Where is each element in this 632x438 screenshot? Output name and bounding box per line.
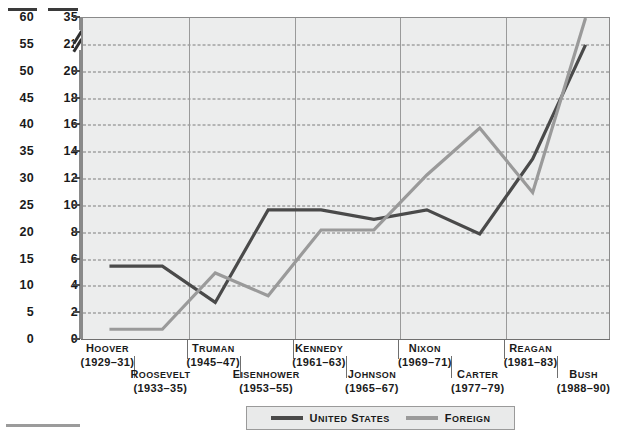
left-axis-tick-60: 60 <box>19 11 34 24</box>
x-axis-label-nixon: NIXON(1969–71) <box>398 342 452 368</box>
x-label-name: CARTER <box>451 368 505 382</box>
x-axis-band: HOOVER(1929–31)ROOSEVELT(1933–35)TRUMAN(… <box>81 339 610 401</box>
left-axis-tick-20: 20 <box>19 225 34 238</box>
x-axis-label-kennedy: KENNEDY(1961–63) <box>292 342 346 368</box>
x-label-name: HOOVER <box>81 342 135 356</box>
right-axis-tickmark <box>73 311 80 313</box>
x-label-name: EISENHOWER <box>233 368 300 382</box>
left-axis-tick-0: 0 <box>27 333 34 346</box>
x-label-years: (1929–31) <box>81 356 135 369</box>
x-axis-label-eisenhower: EISENHOWER(1953–55) <box>233 368 300 394</box>
x-label-name: JOHNSON <box>345 368 399 382</box>
left-axis-tick-45: 45 <box>19 91 34 104</box>
chart-legend: UNITED STATESFOREIGN <box>246 406 515 430</box>
legend-swatch-icon <box>406 416 438 420</box>
x-label-years: (1933–35) <box>130 382 190 395</box>
left-axis-tick-10: 10 <box>19 279 34 292</box>
x-label-years: (1945–47) <box>186 356 240 369</box>
right-axis-tickmark <box>73 177 80 179</box>
right-axis-tickmark <box>73 204 80 206</box>
x-label-name: ROOSEVELT <box>130 368 190 382</box>
right-axis-tickmark <box>73 231 80 233</box>
legend-swatch-icon <box>271 416 303 420</box>
series-line-united-states <box>109 45 585 303</box>
x-label-years: (1988–90) <box>557 382 611 395</box>
right-axis-tickmark <box>73 338 80 340</box>
legend-label: UNITED STATES <box>310 412 390 424</box>
x-label-years: (1961–63) <box>292 356 346 369</box>
x-axis-label-truman: TRUMAN(1945–47) <box>186 342 240 368</box>
x-label-name: REAGAN <box>504 342 558 356</box>
footer-rule <box>6 424 80 427</box>
x-label-years: (1953–55) <box>233 382 300 395</box>
chart-container: 051015202530354045505560 024681012141618… <box>0 0 632 438</box>
x-axis-label-bush: BUSH(1988–90) <box>557 368 611 394</box>
right-axis-tickmark <box>73 97 80 99</box>
left-axis-tick-35: 35 <box>19 145 34 158</box>
plot-area <box>81 17 610 339</box>
x-label-name: TRUMAN <box>186 342 240 356</box>
right-axis-tickmark <box>73 150 80 152</box>
left-axis-tick-5: 5 <box>27 306 34 319</box>
x-label-years: (1965–67) <box>345 382 399 395</box>
left-axis-labels: 051015202530354045505560 <box>0 0 34 340</box>
left-axis-tick-30: 30 <box>19 172 34 185</box>
x-label-years: (1969–71) <box>398 356 452 369</box>
x-axis-label-roosevelt: ROOSEVELT(1933–35) <box>130 368 190 394</box>
left-axis-tick-55: 55 <box>19 38 34 51</box>
x-axis-label-carter: CARTER(1977–79) <box>451 368 505 394</box>
right-axis-tickmark <box>73 16 80 18</box>
right-axis-tickmark <box>73 284 80 286</box>
legend-label: FOREIGN <box>445 412 491 424</box>
x-axis-line <box>81 339 610 340</box>
x-label-years: (1977–79) <box>451 382 505 395</box>
series-line-foreign <box>109 18 585 329</box>
x-axis-label-johnson: JOHNSON(1965–67) <box>345 368 399 394</box>
x-label-years: (1981–83) <box>504 356 558 369</box>
legend-item-united-states[interactable]: UNITED STATES <box>271 412 390 424</box>
series-lines <box>83 18 609 339</box>
x-label-name: KENNEDY <box>292 342 346 356</box>
left-axis-tick-50: 50 <box>19 64 34 77</box>
left-axis-tick-15: 15 <box>19 252 34 265</box>
left-axis-tick-25: 25 <box>19 199 34 212</box>
x-axis-label-hoover: HOOVER(1929–31) <box>81 342 135 368</box>
legend-item-foreign[interactable]: FOREIGN <box>406 412 491 424</box>
right-axis-tickmark <box>73 258 80 260</box>
x-label-name: NIXON <box>398 342 452 356</box>
right-axis-tickmark <box>73 123 80 125</box>
x-axis-label-reagan: REAGAN(1981–83) <box>504 342 558 368</box>
left-axis-tick-40: 40 <box>19 118 34 131</box>
plot-inner <box>83 18 609 339</box>
right-axis-tickmark <box>73 70 80 72</box>
x-label-name: BUSH <box>557 368 611 382</box>
